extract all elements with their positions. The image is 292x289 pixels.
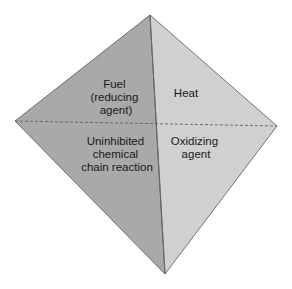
fire-tetrahedron-diagram: Fuel (reducing agent) Heat Uninhibited c… (0, 0, 292, 289)
label-heat: Heat (174, 87, 199, 99)
